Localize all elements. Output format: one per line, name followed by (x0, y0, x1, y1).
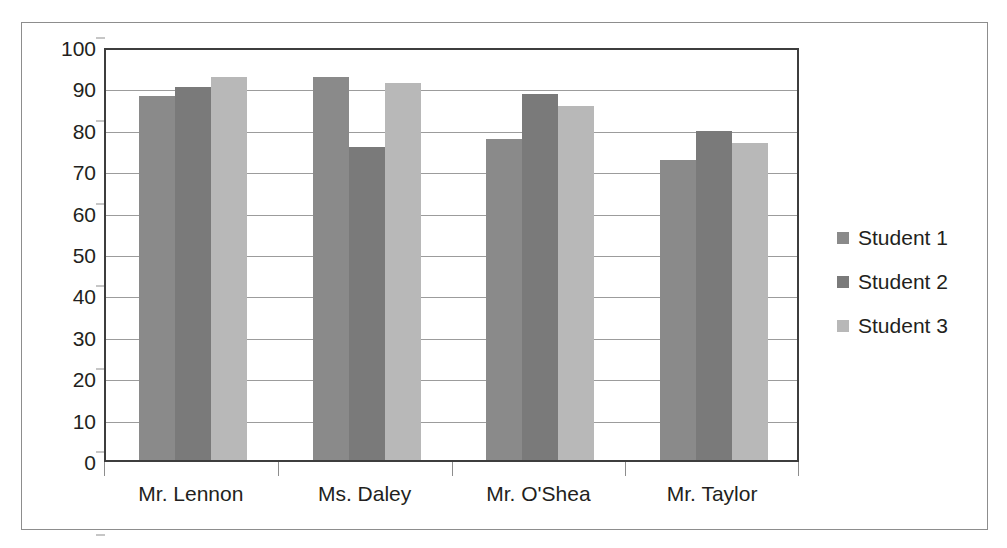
y-axis-tick-label: 0 (24, 452, 96, 473)
bar[interactable] (139, 96, 175, 460)
y-axis-tick-mark (96, 38, 105, 39)
bar[interactable] (486, 139, 522, 460)
x-axis-category-label: Ms. Daley (278, 482, 452, 506)
x-axis-tick-mark (798, 462, 799, 476)
x-axis-category-label: Mr. Taylor (625, 482, 799, 506)
y-axis-tick-label: 10 (24, 410, 96, 431)
bar[interactable] (175, 87, 211, 460)
legend-item[interactable]: Student 1 (837, 216, 987, 260)
legend-item-label: Student 2 (858, 270, 948, 294)
bar[interactable] (660, 160, 696, 460)
y-axis-tick-label: 90 (24, 79, 96, 100)
bar[interactable] (696, 131, 732, 460)
y-axis-tick-label: 30 (24, 327, 96, 348)
legend-swatch-icon (837, 232, 849, 244)
legend-item-label: Student 1 (858, 226, 948, 250)
x-axis-tick-mark (278, 462, 279, 476)
x-axis-tick-mark (625, 462, 626, 476)
legend-item-label: Student 3 (858, 314, 948, 338)
x-axis-category-label: Mr. O'Shea (452, 482, 626, 506)
bar[interactable] (522, 94, 558, 460)
y-axis-tick-label: 80 (24, 120, 96, 141)
chart-container: 1009080706050403020100 Mr. LennonMs. Dal… (21, 22, 988, 530)
bar-group (627, 50, 801, 460)
y-axis-tick-mark (96, 534, 105, 535)
y-axis: 1009080706050403020100 (22, 48, 96, 462)
bar[interactable] (313, 77, 349, 460)
y-axis-tick-label: 50 (24, 245, 96, 266)
bar[interactable] (349, 147, 385, 460)
chart-legend: Student 1Student 2Student 3 (837, 216, 987, 348)
bar[interactable] (211, 77, 247, 460)
bar-group (454, 50, 628, 460)
y-axis-tick-label: 100 (24, 38, 96, 59)
plot-area (104, 48, 799, 462)
x-axis-category-label: Mr. Lennon (104, 482, 278, 506)
y-axis-tick-label: 20 (24, 369, 96, 390)
x-axis-tick-mark (452, 462, 453, 476)
x-axis: Mr. LennonMs. DaleyMr. O'SheaMr. Taylor (104, 462, 799, 522)
bar[interactable] (385, 83, 421, 460)
legend-swatch-icon (837, 276, 849, 288)
y-axis-tick-label: 60 (24, 203, 96, 224)
bar-group (280, 50, 454, 460)
y-axis-tick-label: 40 (24, 286, 96, 307)
bar-group (106, 50, 280, 460)
x-axis-tick-mark (104, 462, 105, 476)
legend-swatch-icon (837, 320, 849, 332)
bar[interactable] (732, 143, 768, 460)
bar[interactable] (558, 106, 594, 460)
legend-item[interactable]: Student 2 (837, 260, 987, 304)
y-axis-tick-label: 70 (24, 162, 96, 183)
legend-item[interactable]: Student 3 (837, 304, 987, 348)
